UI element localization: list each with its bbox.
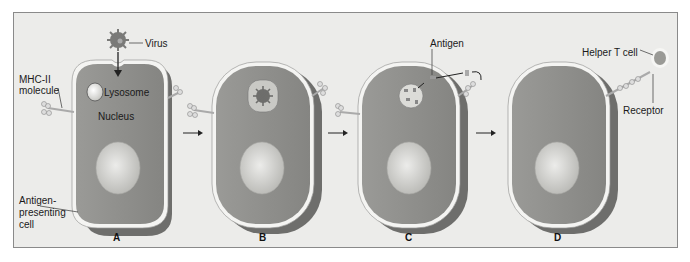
apc-label-line3: cell [19,219,34,230]
antigen-label: Antigen [430,38,464,49]
nucleus-label: Nucleus [98,111,134,122]
mhc-ii-label-line1: MHC-II [19,74,51,85]
arrow-icon [328,130,348,136]
panel-label-b: B [259,232,266,243]
panel-label-d: D [554,232,561,243]
helper-t-cell-label: Helper T cell [582,47,638,58]
mhc-ii-label-line2: molecule [19,85,59,96]
receptor-label: Receptor [623,105,664,116]
apc-label-line1: Antigen- [19,195,56,206]
mhc-ii-molecule-icon [606,72,650,96]
panel-label-c: C [405,232,412,243]
helper-t-cell-icon [651,48,669,68]
apc-label-line2: presenting [19,207,66,218]
cell-c [358,49,481,234]
panel-label-a: A [113,232,120,243]
diagram-canvas [0,0,690,262]
cell-b [212,62,322,234]
arrow-icon [183,130,203,136]
arrow-icon [476,130,496,136]
lysosome-label: Lysosome [104,87,149,98]
cell-d [508,62,618,234]
virus-label: Virus [145,38,168,49]
